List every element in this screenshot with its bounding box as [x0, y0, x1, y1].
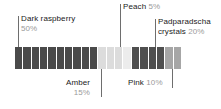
bar-segment	[90, 47, 98, 69]
callout-label-peach: Peach	[123, 2, 146, 11]
leader-line-peach	[120, 4, 121, 47]
bar-segment	[157, 47, 165, 69]
bar-segment	[15, 47, 23, 69]
callout-label-pink: Pink	[128, 78, 144, 87]
bar-segment	[98, 47, 106, 69]
callout-amber: Amber15%	[66, 78, 90, 97]
bar-segment	[149, 47, 157, 69]
callout-percent-padparadscha: 20%	[188, 27, 204, 36]
callout-percent-dark-raspberry: 50%	[21, 24, 75, 34]
callout-dark-raspberry: Dark raspberry50%	[21, 14, 75, 33]
bar-segment	[123, 47, 131, 69]
bar-segment	[132, 47, 140, 69]
bar-segment	[115, 47, 123, 69]
bar-segment	[65, 47, 73, 69]
bar-segment	[174, 47, 181, 69]
bar-segment	[40, 47, 48, 69]
bar-segment	[82, 47, 90, 69]
bar-segment	[107, 47, 115, 69]
bar-segment	[23, 47, 31, 69]
leader-line-amber	[101, 69, 102, 97]
leader-line-pink	[172, 69, 173, 88]
bar-segment	[73, 47, 81, 69]
segmented-proportion-bar	[15, 47, 181, 69]
callout-pink: Pink 10%	[128, 78, 163, 88]
bar-segment	[165, 47, 173, 69]
bar-segment	[57, 47, 65, 69]
callout-peach: Peach 5%	[123, 2, 160, 12]
callout-label-padparadscha-line2: crystals	[158, 27, 186, 36]
callout-percent-peach: 5%	[149, 2, 161, 11]
bar-segment	[32, 47, 40, 69]
callout-percent-pink: 10%	[146, 78, 162, 87]
callout-percent-amber: 15%	[66, 88, 90, 98]
proportion-bar-chart: Dark raspberry50% Peach 5% Padparadscha …	[0, 0, 221, 109]
callout-label-dark-raspberry: Dark raspberry	[21, 14, 75, 23]
callout-label-padparadscha-line1: Padparadscha	[158, 17, 211, 26]
leader-line-dark-raspberry	[18, 16, 19, 47]
bar-segment	[48, 47, 56, 69]
callout-label-amber: Amber	[66, 78, 90, 87]
leader-line-padparadscha	[155, 19, 156, 47]
bar-segment	[140, 47, 148, 69]
callout-padparadscha-crystals: Padparadscha crystals 20%	[158, 17, 211, 36]
